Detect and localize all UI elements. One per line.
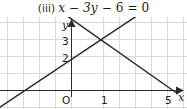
figure-root: (iii)x − 3y − 6 = 0 [0, 0, 187, 109]
y-tick-label-3: 3 [62, 35, 69, 47]
equation-operator-minus-1: − [69, 1, 79, 15]
plot-svg: y x 3 2 O 1 5 [0, 17, 187, 109]
x-axis-label: x [178, 91, 185, 104]
equation-equals-sign: = [127, 1, 137, 15]
equation-operator-minus-2: − [102, 1, 112, 15]
origin-label: O [62, 94, 70, 106]
x-tick-label-1: 1 [101, 94, 108, 106]
caption-item-label: (iii) [38, 2, 55, 14]
equation-rhs-zero: 0 [141, 1, 149, 15]
equation-term-6: 6 [116, 1, 124, 15]
plot-background [0, 17, 187, 109]
y-axis-label: y [61, 19, 69, 32]
coordinate-plot: y x 3 2 O 1 5 [0, 17, 187, 109]
equation-term-3y: 3y [83, 1, 98, 15]
caption-equation: x − 3y − 6 = 0 [55, 1, 149, 15]
y-tick-label-2: 2 [62, 52, 69, 64]
x-tick-label-5: 5 [165, 94, 172, 106]
figure-caption: (iii)x − 3y − 6 = 0 [0, 0, 187, 17]
equation-term-x: x [58, 1, 65, 15]
